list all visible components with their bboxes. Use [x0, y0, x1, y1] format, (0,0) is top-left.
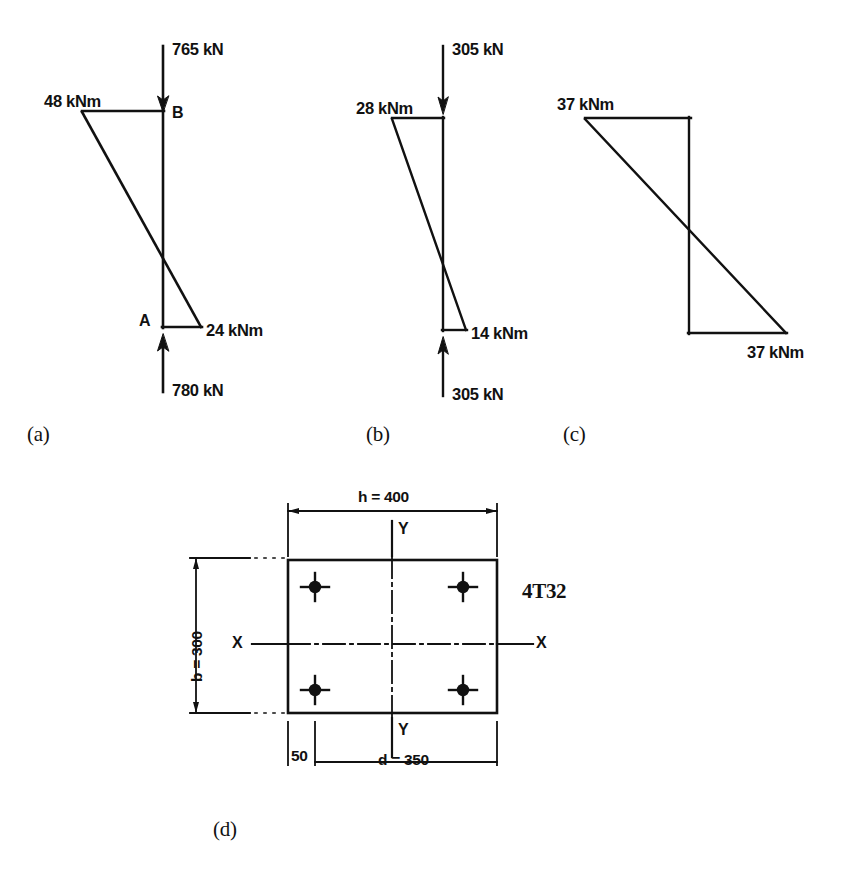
rebar-bottom-right	[449, 676, 477, 704]
section-cover-dim-label: 50	[291, 748, 308, 764]
diagram-c-moment-diagonal	[585, 119, 786, 333]
rebar-top-right	[449, 573, 477, 601]
figure-drawing	[0, 0, 865, 883]
diagram-c-bottom-moment-label: 37 kNm	[747, 344, 804, 361]
section-width-dim-label: h = 400	[358, 489, 409, 505]
section-axis-x-right-label: X	[536, 635, 546, 651]
diagram-b-top-moment-label: 28 kNm	[356, 100, 413, 117]
section-axis-y-top-label: Y	[398, 521, 408, 537]
section-height-dim-label: b = 300	[189, 631, 205, 682]
diagram-a-bottom-force-label: 780 kN	[172, 382, 223, 399]
section-reinforcement-label: 4T32	[522, 581, 566, 602]
section-depth-dim-label: d = 350	[378, 752, 429, 768]
rebar-bottom-left	[301, 676, 329, 704]
figure-root: 765 kN 48 kNm B A 24 kNm 780 kN (a) 305 …	[0, 0, 865, 883]
section-width-arrow-right	[486, 508, 497, 514]
diagram-a-bottom-moment-label: 24 kNm	[206, 322, 263, 339]
section-height-arrow-top	[193, 558, 199, 569]
section-axis-y-bottom-label: Y	[398, 722, 408, 738]
diagram-c-geometry	[585, 117, 787, 334]
part-label-d: (d)	[213, 819, 237, 840]
part-label-a: (a)	[27, 424, 49, 445]
part-label-b: (b)	[366, 424, 390, 445]
diagram-a-top-force-label: 765 kN	[172, 41, 223, 58]
diagram-b-bottom-moment-label: 14 kNm	[471, 325, 528, 342]
diagram-b-bottom-force-label: 305 kN	[452, 386, 503, 403]
diagram-a-node-bottom-label: A	[139, 313, 150, 329]
section-width-arrow-left	[288, 508, 299, 514]
section-axis-x-left-label: X	[232, 635, 242, 651]
diagram-b-moment-diagonal	[392, 119, 466, 330]
rebar-top-left	[301, 573, 329, 601]
diagram-a-top-moment-label: 48 kNm	[44, 93, 101, 110]
section-height-arrow-bottom	[193, 702, 199, 713]
part-label-c: (c)	[563, 424, 585, 445]
diagram-a-moment-diagonal	[82, 112, 201, 327]
diagram-c-top-moment-label: 37 kNm	[557, 96, 614, 113]
diagram-a-node-top-label: B	[172, 105, 183, 121]
diagram-b-top-force-label: 305 kN	[452, 41, 503, 58]
